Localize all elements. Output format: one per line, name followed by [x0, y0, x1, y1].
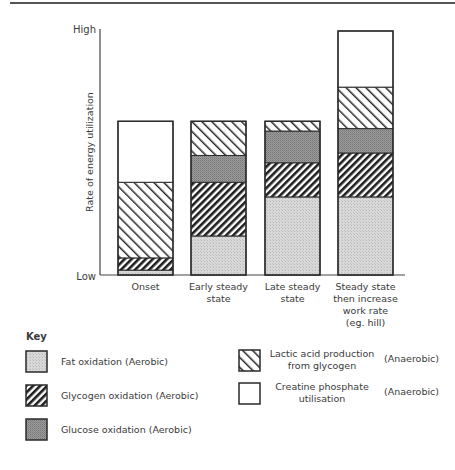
legend-title: Key: [26, 331, 47, 342]
segment-glycogen: [338, 153, 393, 197]
x-tick-label: Onset: [131, 281, 159, 292]
legend-label: Creatine phosphateutilisation: [275, 381, 369, 404]
legend-item-glycogen: Glycogen oxidation (Aerobic): [26, 385, 198, 406]
segment-fat: [338, 197, 393, 275]
legend: KeyFat oxidation (Aerobic)Glycogen oxida…: [26, 331, 439, 440]
segment-lactic: [265, 121, 320, 131]
x-tick-label: Late steadystate: [265, 281, 321, 304]
segment-glucose: [265, 131, 320, 163]
x-axis-labels: OnsetEarly steadystateLate steadystateSt…: [131, 281, 397, 328]
legend-item-fat: Fat oxidation (Aerobic): [26, 351, 168, 372]
segment-glycogen: [118, 258, 173, 270]
segment-lactic: [338, 87, 393, 128]
legend-item-lactic: Lactic acid productionfrom glycogen(Anae…: [239, 348, 439, 371]
bar-3: [338, 31, 393, 275]
bar-2: [265, 121, 320, 275]
legend-tag: (Anaerobic): [384, 386, 439, 397]
segment-creatine: [118, 121, 173, 182]
chart-bars: [118, 31, 393, 275]
y-axis-label: Rate of energy utilization: [84, 92, 95, 212]
legend-swatch: [239, 383, 260, 404]
legend-label: Glucose oxidation (Aerobic): [61, 424, 192, 435]
segment-fat: [118, 270, 173, 275]
bar-1: [191, 121, 246, 275]
segment-glycogen: [191, 182, 246, 236]
x-tick-label: Steady statethen increasework rate(eg. h…: [333, 281, 398, 328]
segment-lactic: [118, 182, 173, 258]
segment-lactic: [191, 121, 246, 155]
segment-creatine: [338, 31, 393, 87]
segment-fat: [265, 197, 320, 275]
bar-0: [118, 121, 173, 275]
legend-item-creatine: Creatine phosphateutilisation(Anaerobic): [239, 381, 439, 404]
legend-label: Fat oxidation (Aerobic): [61, 356, 168, 367]
legend-tag: (Anaerobic): [384, 353, 439, 364]
segment-glucose: [338, 129, 393, 153]
segment-glycogen: [265, 163, 320, 197]
segment-fat: [191, 236, 246, 275]
x-tick-label: Early steadystate: [189, 281, 248, 304]
legend-label: Lactic acid productionfrom glycogen: [270, 348, 375, 371]
y-tick-high: High: [73, 24, 96, 35]
legend-item-glucose: Glucose oxidation (Aerobic): [26, 419, 192, 440]
y-tick-low: Low: [76, 271, 96, 282]
legend-swatch: [26, 351, 47, 372]
segment-glucose: [191, 155, 246, 182]
legend-label: Glycogen oxidation (Aerobic): [61, 390, 198, 401]
legend-swatch: [26, 419, 47, 440]
stacked-bar-chart: HighLowRate of energy utilization OnsetE…: [0, 0, 455, 470]
legend-swatch: [239, 350, 260, 371]
legend-swatch: [26, 385, 47, 406]
